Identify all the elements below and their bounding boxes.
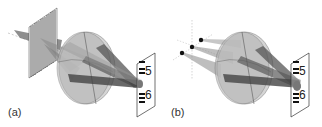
panel-label-b: (b) (171, 106, 184, 118)
screen-label-5: 5 (145, 64, 152, 78)
point-source-3 (180, 51, 184, 55)
point-source-1 (199, 38, 203, 42)
panel-a: 5 6 (a) (0, 0, 161, 127)
grating (29, 8, 57, 78)
optical-setup-b-graphic (161, 0, 322, 127)
screen-label-6: 6 (145, 88, 152, 102)
screen (291, 53, 309, 117)
screen-label-6: 6 (299, 88, 306, 102)
panel-label-a: (a) (8, 106, 21, 118)
optical-setup-a-graphic (0, 0, 161, 127)
screen (137, 53, 155, 117)
panel-b: 5 6 (b) (161, 0, 322, 127)
point-source-2 (190, 45, 194, 49)
screen-label-5: 5 (299, 64, 306, 78)
